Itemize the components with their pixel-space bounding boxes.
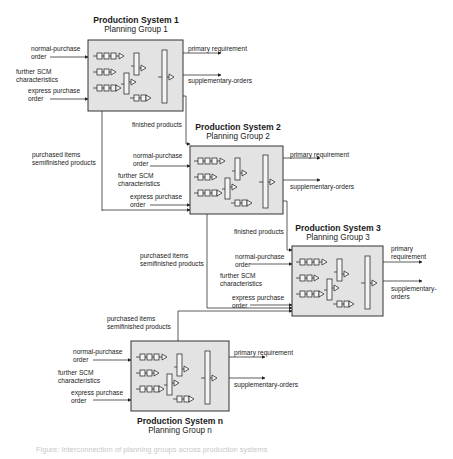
ps3-supplementary-orders-label: supplementary- orders bbox=[391, 285, 436, 301]
ps2-express-purchase-label: express purchase order bbox=[130, 193, 182, 209]
label-line: further SCM bbox=[118, 172, 160, 180]
production-system-n-box[interactable] bbox=[131, 341, 229, 411]
psn-primary-requirement-label: primary requirement bbox=[234, 349, 293, 357]
figure-caption: Figure: Interconnection of planning grou… bbox=[36, 445, 267, 454]
label-line: normal-purchase bbox=[31, 45, 80, 53]
ps1-further-scm-label: further SCM characteristics bbox=[16, 68, 58, 84]
psn-planning-group: Planning Group n bbox=[130, 426, 230, 436]
label-line: semifinished products bbox=[32, 159, 96, 167]
ps1-express-purchase-label: express purchase order bbox=[28, 87, 80, 103]
purchased-items-label-3: purchased items semifinished products bbox=[107, 315, 171, 331]
label-line: orders bbox=[391, 293, 436, 301]
ps2-system-name: Production System 2 bbox=[188, 122, 288, 132]
psn-title: Production System n Planning Group n bbox=[130, 416, 230, 436]
ps3-express-purchase-label: express purchase order bbox=[232, 294, 284, 310]
label-line: order bbox=[235, 261, 284, 269]
ps2-primary-requirement-label: primary requirement bbox=[290, 151, 349, 159]
label-line: further SCM bbox=[16, 68, 58, 76]
label-line: order bbox=[71, 397, 123, 405]
label-line: express purchase bbox=[28, 87, 80, 95]
ps2-planning-group: Planning Group 2 bbox=[188, 132, 288, 142]
label-line: order bbox=[130, 201, 182, 209]
production-system-1-box[interactable] bbox=[88, 40, 183, 111]
ps2-supplementary-orders-label: supplementary-orders bbox=[290, 183, 354, 191]
label-line: characteristics bbox=[58, 377, 100, 385]
label-line: express purchase bbox=[232, 294, 284, 302]
label-line: supplementary- bbox=[391, 285, 436, 293]
ps3-title: Production System 3 Planning Group 3 bbox=[290, 223, 386, 243]
ps3-planning-group: Planning Group 3 bbox=[290, 233, 386, 243]
psn-normal-purchase-label: normal-purchase order bbox=[73, 348, 122, 364]
ps1-supplementary-orders-label: supplementary-orders bbox=[188, 77, 252, 85]
label-line: order bbox=[31, 53, 80, 61]
label-line: further SCM bbox=[220, 272, 262, 280]
ps1-primary-requirement-label: primary requirement bbox=[188, 45, 247, 53]
ps1-title: Production System 1 Planning Group 1 bbox=[90, 15, 182, 35]
label-line: purchased items bbox=[107, 315, 171, 323]
ps3-normal-purchase-label: normal-purchase order bbox=[235, 253, 284, 269]
label-line: normal-purchase bbox=[235, 253, 284, 261]
production-system-2-box[interactable] bbox=[190, 146, 283, 214]
psn-express-purchase-label: express purchase order bbox=[71, 389, 123, 405]
label-line: primary bbox=[391, 245, 426, 253]
ps2-further-scm-label: further SCM characteristics bbox=[118, 172, 160, 188]
label-line: further SCM bbox=[58, 369, 100, 377]
purchased-items-label-2: purchased items semifinished products bbox=[140, 252, 204, 268]
ps2-normal-purchase-label: normal-purchase order bbox=[133, 152, 182, 168]
label-line: requirement bbox=[391, 253, 426, 261]
psn-further-scm-label: further SCM characteristics bbox=[58, 369, 100, 385]
ps3-primary-requirement-label: primary requirement bbox=[391, 245, 426, 261]
label-line: characteristics bbox=[16, 76, 58, 84]
label-line: normal-purchase bbox=[133, 152, 182, 160]
ps1-system-name: Production System 1 bbox=[90, 15, 182, 25]
label-line: express purchase bbox=[130, 193, 182, 201]
psn-system-name: Production System n bbox=[130, 416, 230, 426]
label-line: order bbox=[133, 160, 182, 168]
label-line: purchased items bbox=[32, 151, 96, 159]
label-line: purchased items bbox=[140, 252, 204, 260]
label-line: characteristics bbox=[118, 180, 160, 188]
ps1-normal-purchase-label: normal-purchase order bbox=[31, 45, 80, 61]
label-line: characteristics bbox=[220, 280, 262, 288]
label-line: normal-purchase bbox=[73, 348, 122, 356]
purchased-items-label-1: purchased items semifinished products bbox=[32, 151, 96, 167]
production-system-3-box[interactable] bbox=[292, 246, 383, 316]
label-line: semifinished products bbox=[107, 323, 171, 331]
ps1-planning-group: Planning Group 1 bbox=[90, 25, 182, 35]
label-line: order bbox=[232, 302, 284, 310]
ps2-title: Production System 2 Planning Group 2 bbox=[188, 122, 288, 142]
finished-products-label-1: finished products bbox=[132, 121, 182, 129]
label-line: semifinished products bbox=[140, 260, 204, 268]
psn-purchased-items-flow bbox=[178, 311, 292, 341]
label-line: order bbox=[73, 356, 122, 364]
ps3-further-scm-label: further SCM characteristics bbox=[220, 272, 262, 288]
finished-products-label-2: finished products bbox=[234, 228, 284, 236]
label-line: order bbox=[28, 95, 80, 103]
label-line: express purchase bbox=[71, 389, 123, 397]
ps3-system-name: Production System 3 bbox=[290, 223, 386, 233]
psn-supplementary-orders-label: supplementary-orders bbox=[234, 381, 298, 389]
